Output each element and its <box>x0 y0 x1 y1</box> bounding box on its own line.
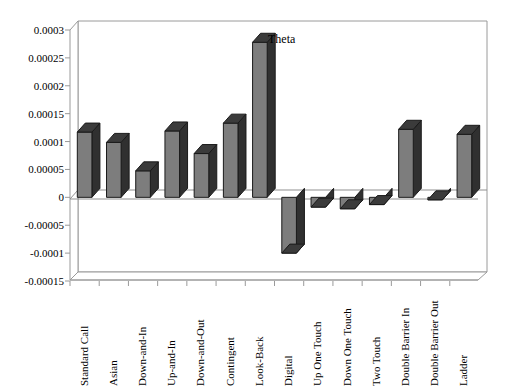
x-tick-label: Down-and-Out <box>195 319 206 386</box>
floor-plane <box>70 272 487 280</box>
y-tick-label: 0.0001 <box>34 136 64 147</box>
bar-column <box>107 133 130 197</box>
x-tick-label: Double Barrier Out <box>429 300 440 386</box>
bar-front-face <box>77 132 92 197</box>
x-tick-label: Digital <box>283 355 294 386</box>
bar-column <box>253 33 276 197</box>
chart-root: 0.00030.000250.00020.000150.00010.000050… <box>0 0 510 390</box>
x-tick-label: Contingent <box>225 337 236 386</box>
x-tick-marks <box>70 281 450 286</box>
x-tick-label: Look-Back <box>254 337 265 386</box>
bar-column <box>399 120 422 197</box>
bar-front-face <box>253 42 268 197</box>
bar-side-face <box>121 133 129 197</box>
bar-column <box>457 125 480 197</box>
x-tick-label: Ladder <box>458 355 469 386</box>
y-tick-label: 0.0002 <box>34 80 64 91</box>
y-tick-label: -0.00005 <box>25 220 64 231</box>
bar-column <box>165 122 188 197</box>
y-tick-label: 0 <box>59 192 65 203</box>
bar-front-face <box>457 134 472 197</box>
x-tick-label: Double Barrier In <box>400 308 411 386</box>
x-tick-label: Standard Call <box>79 326 90 386</box>
y-tick-label: 0.0003 <box>34 25 64 36</box>
bar-column <box>223 114 246 197</box>
y-tick-label: 0.00005 <box>28 164 64 175</box>
y-tick-label: 0.00025 <box>28 52 64 63</box>
bar-side-face <box>92 123 100 197</box>
left-wall <box>70 21 78 280</box>
bar-column <box>77 123 100 197</box>
bar-column <box>194 145 217 198</box>
x-tick-label: Two Touch <box>371 337 382 386</box>
x-tick-label: Down-and-In <box>137 327 148 386</box>
x-tick-label: Asian <box>108 360 119 386</box>
bar-front-face <box>194 154 209 198</box>
y-tick-label: -0.00015 <box>25 276 64 287</box>
bar-front-face <box>223 123 238 197</box>
bar-side-face <box>180 122 188 197</box>
series-annotation-label: Theta <box>268 32 295 47</box>
x-tick-label: Up-and-In <box>166 340 177 386</box>
x-tick-label: Up One Touch <box>312 322 323 386</box>
bar-side-face <box>472 125 480 197</box>
bar-front-face <box>399 129 414 197</box>
bar-side-face <box>413 120 421 197</box>
bar-front-face <box>107 142 122 197</box>
x-tick-label: Down One Touch <box>342 308 353 386</box>
bar-side-face <box>267 33 275 197</box>
bar-side-face <box>238 114 246 197</box>
bar-side-face <box>296 188 304 253</box>
y-axis-tick-labels: 0.00030.000250.00020.000150.00010.000050… <box>0 0 64 390</box>
y-tick-label: -0.0001 <box>30 248 64 259</box>
bar-column <box>282 188 305 253</box>
bar-column <box>136 162 159 197</box>
y-tick-label: 0.00015 <box>28 108 64 119</box>
bar-front-face <box>136 171 151 197</box>
bar-front-face <box>165 131 180 197</box>
y-tick-marks <box>65 30 70 281</box>
